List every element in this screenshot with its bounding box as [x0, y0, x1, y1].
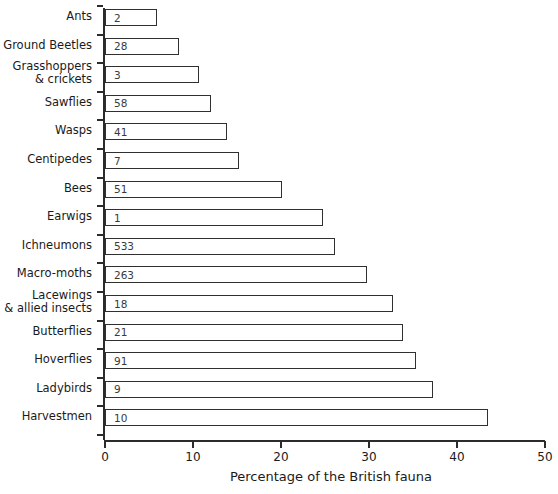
bar: 263: [105, 266, 367, 283]
category-label: Harvestmen: [0, 410, 92, 423]
bar-value-label: 1: [114, 212, 121, 224]
y-axis-tick: [97, 148, 103, 150]
bar-value-label: 7: [114, 155, 121, 167]
bar: 2: [105, 9, 157, 26]
bar: 3: [105, 66, 199, 83]
bar: 1: [105, 209, 323, 226]
chart-row: Ichneumons533: [0, 237, 558, 265]
bar: 9: [105, 381, 433, 398]
x-axis-title: Percentage of the British fauna: [0, 469, 558, 484]
y-axis-tick: [97, 405, 103, 407]
category-label: Ground Beetles: [0, 39, 92, 52]
bar-value-label: 18: [114, 298, 127, 310]
bar-rows-container: Ants2Ground Beetles28Grasshoppers & cric…: [0, 0, 558, 436]
chart-row: Hoverflies91: [0, 351, 558, 379]
bar: 28: [105, 38, 179, 55]
chart-row: Centipedes7: [0, 151, 558, 179]
chart-row: Harvestmen10: [0, 408, 558, 436]
bar-value-label: 91: [114, 355, 127, 367]
category-label: Ichneumons: [0, 239, 92, 252]
bar-value-label: 3: [114, 69, 121, 81]
x-axis-tick: [456, 441, 458, 448]
category-label: Earwigs: [0, 210, 92, 223]
chart-row: Ants2: [0, 8, 558, 36]
y-axis-tick: [97, 348, 103, 350]
chart-row: Sawflies58: [0, 94, 558, 122]
y-axis-tick: [97, 177, 103, 179]
chart-row: Earwigs1: [0, 208, 558, 236]
chart-row: Bees51: [0, 180, 558, 208]
x-axis-tick-label: 20: [261, 450, 301, 464]
category-label: Sawflies: [0, 96, 92, 109]
bar-value-label: 10: [114, 412, 127, 424]
chart-row: Lacewings & allied insects18: [0, 294, 558, 322]
category-label: Centipedes: [0, 153, 92, 166]
y-axis-tick: [97, 5, 103, 7]
x-axis-tick: [192, 441, 194, 448]
category-label: Butterflies: [0, 325, 92, 338]
chart-row: Wasps41: [0, 122, 558, 150]
category-label: Wasps: [0, 124, 92, 137]
x-axis-tick-label: 40: [437, 450, 477, 464]
chart-row: Butterflies21: [0, 323, 558, 351]
x-axis-tick: [280, 441, 282, 448]
x-axis-tick: [544, 441, 546, 448]
bar-value-label: 58: [114, 97, 127, 109]
y-axis-tick: [97, 91, 103, 93]
bar: 51: [105, 181, 282, 198]
chart-row: Grasshoppers & crickets3: [0, 65, 558, 93]
x-axis-tick-label: 50: [525, 450, 558, 464]
y-axis-tick: [97, 291, 103, 293]
x-axis-tick-label: 10: [173, 450, 213, 464]
category-label: Ladybirds: [0, 382, 92, 395]
bar: 41: [105, 123, 227, 140]
bar: 7: [105, 152, 239, 169]
x-axis-line: [104, 440, 545, 442]
bar-value-label: 51: [114, 183, 127, 195]
category-label: Macro-moths: [0, 267, 92, 280]
bar: 91: [105, 352, 416, 369]
category-label: Hoverflies: [0, 353, 92, 366]
bar-chart: Ants2Ground Beetles28Grasshoppers & cric…: [0, 0, 558, 494]
bar: 21: [105, 324, 403, 341]
category-label: Bees: [0, 182, 92, 195]
x-axis-tick: [368, 441, 370, 448]
bar-value-label: 2: [114, 12, 121, 24]
y-axis-tick: [97, 320, 103, 322]
y-axis-tick: [97, 377, 103, 379]
y-axis-tick: [97, 234, 103, 236]
category-label: Ants: [0, 10, 92, 23]
bar: 58: [105, 95, 211, 112]
category-label: Lacewings & allied insects: [0, 289, 92, 315]
chart-row: Ladybirds9: [0, 380, 558, 408]
x-axis-tick-label: 0: [85, 450, 125, 464]
bar-value-label: 41: [114, 126, 127, 138]
bar-value-label: 263: [114, 269, 134, 281]
bar-value-label: 533: [114, 240, 134, 252]
x-axis-tick: [104, 441, 106, 448]
y-axis-tick: [97, 434, 103, 436]
y-axis-tick: [97, 262, 103, 264]
y-axis-tick: [97, 205, 103, 207]
y-axis-tick: [97, 62, 103, 64]
category-label: Grasshoppers & crickets: [0, 60, 92, 86]
bar: 533: [105, 238, 335, 255]
y-axis-tick: [97, 119, 103, 121]
bar: 18: [105, 295, 393, 312]
bar-value-label: 28: [114, 40, 127, 52]
x-axis-tick-label: 30: [349, 450, 389, 464]
bar-value-label: 9: [114, 383, 121, 395]
bar: 10: [105, 409, 488, 426]
bar-value-label: 21: [114, 326, 127, 338]
y-axis-tick: [97, 34, 103, 36]
